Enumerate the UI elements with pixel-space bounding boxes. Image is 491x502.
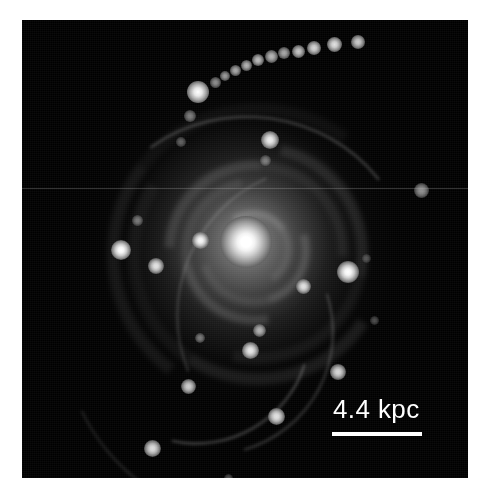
source-faint-ne — [370, 316, 379, 325]
source-south-east — [330, 364, 346, 380]
source-east-bright — [337, 261, 359, 283]
source-halo-far-east — [414, 183, 429, 198]
source-bottom-left — [144, 440, 161, 457]
source-west-lower — [148, 258, 164, 274]
stream-knot-3 — [230, 65, 241, 76]
stream-knot-10 — [327, 37, 342, 52]
source-west-bright — [111, 240, 131, 260]
source-upper-left-halo — [132, 215, 143, 226]
shell-left-arc — [27, 154, 379, 478]
horizontal-scanline-artifact — [22, 188, 468, 189]
stream-knot-8 — [292, 45, 305, 58]
source-north-faint — [260, 155, 271, 166]
source-south-center — [253, 324, 266, 337]
stream-knot-13 — [176, 137, 186, 147]
stream-knot-11 — [351, 35, 365, 49]
source-north-companion — [261, 131, 279, 149]
scalebar-line — [332, 432, 422, 436]
source-south-lower — [242, 342, 259, 359]
shell-lower-left-arc — [64, 207, 346, 478]
stream-knot-5 — [252, 54, 264, 66]
stream-knot-0 — [187, 81, 209, 103]
shell-right-arc — [132, 123, 468, 478]
astronomical-image: 4.4 kpc — [22, 20, 468, 478]
source-faint-bottom — [224, 474, 233, 479]
source-south-west — [181, 379, 196, 394]
stream-knot-1 — [210, 77, 221, 88]
source-arc-knot — [195, 333, 205, 343]
source-faint-se — [362, 254, 371, 263]
figure-root: 4.4 kpc — [0, 0, 491, 502]
stream-knot-6 — [265, 50, 278, 63]
stream-knot-9 — [307, 41, 321, 55]
shell-upper-arc — [68, 95, 431, 441]
source-far-south — [268, 408, 285, 425]
stream-knot-2 — [220, 71, 230, 81]
stream-knot-12 — [184, 110, 196, 122]
stream-knot-4 — [241, 60, 252, 71]
scalebar-label: 4.4 kpc — [333, 396, 420, 422]
source-inner-right — [296, 279, 311, 294]
galaxy-nucleus — [220, 216, 272, 268]
source-inner-left — [192, 232, 209, 249]
stream-knot-7 — [278, 47, 290, 59]
